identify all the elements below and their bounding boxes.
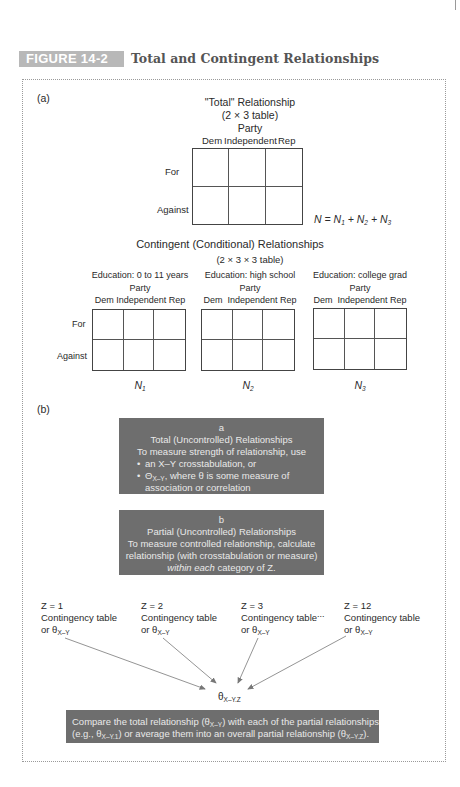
theta-xy-z-result: θX–Y.Z [218,690,241,703]
summary-line-1: Compare the total relationship (θX–Y) wi… [72,716,379,728]
summary-box: Compare the total relationship (θX–Y) wi… [66,710,379,743]
converging-arrows [0,0,460,787]
summary-line-2: (e.g., θX–Y.1) or average them into an o… [72,728,379,740]
